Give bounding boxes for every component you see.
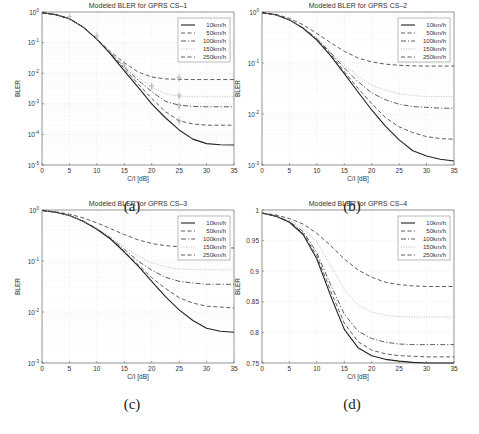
caption-c: (c) — [112, 396, 152, 413]
svg-text:10-4: 10-4 — [28, 130, 40, 138]
chart-title: Modeled BLER for GPRS CS–2 — [309, 2, 408, 9]
x-axis-label: C/I [dB] — [127, 373, 149, 381]
svg-text:10-1: 10-1 — [28, 257, 40, 265]
svg-text:15: 15 — [341, 167, 349, 174]
svg-text:20: 20 — [368, 167, 376, 174]
svg-text:25: 25 — [396, 167, 404, 174]
svg-text:0: 0 — [40, 365, 44, 372]
chart-panel-b: Modeled BLER for GPRS CS–205101520253035… — [220, 0, 479, 202]
svg-text:0.8: 0.8 — [250, 329, 259, 336]
chart-svg: Modeled BLER for GPRS CS–205101520253035… — [220, 0, 479, 198]
svg-text:100: 100 — [29, 8, 39, 16]
svg-text:35: 35 — [450, 365, 458, 372]
svg-text:10-3: 10-3 — [28, 359, 40, 367]
chart-title: Modeled BLER for GPRS CS–1 — [89, 2, 188, 9]
svg-text:0: 0 — [260, 167, 264, 174]
chart-svg: Modeled BLER for GPRS CS–405101520253035… — [220, 198, 479, 396]
svg-text:20: 20 — [148, 167, 156, 174]
svg-text:10: 10 — [93, 167, 101, 174]
legend: 10km/h50km/h100km/h150km/h250km/h — [398, 18, 450, 62]
svg-text:10-3: 10-3 — [28, 99, 40, 107]
svg-text:10: 10 — [93, 365, 101, 372]
svg-text:20: 20 — [148, 365, 156, 372]
svg-text:25: 25 — [176, 365, 184, 372]
svg-text:1: 1 — [255, 207, 259, 214]
legend-label: 250km/h — [423, 252, 446, 258]
y-axis-label: BLER — [14, 80, 21, 97]
chart-panel-d: Modeled BLER for GPRS CS–405101520253035… — [220, 198, 479, 400]
y-axis-label: BLER — [14, 278, 21, 295]
svg-text:10-5: 10-5 — [28, 161, 40, 169]
svg-text:10: 10 — [313, 365, 321, 372]
svg-text:0: 0 — [40, 167, 44, 174]
legend-label: 50km/h — [426, 30, 446, 36]
svg-text:10-2: 10-2 — [28, 69, 40, 77]
legend-label: 150km/h — [423, 244, 446, 250]
svg-text:10-3: 10-3 — [248, 161, 260, 169]
svg-text:0.75: 0.75 — [246, 360, 259, 367]
legend-label: 50km/h — [426, 228, 446, 234]
svg-text:30: 30 — [423, 365, 431, 372]
svg-text:100: 100 — [29, 206, 39, 214]
legend-label: 250km/h — [423, 54, 446, 60]
svg-text:15: 15 — [121, 167, 129, 174]
legend-label: 100km/h — [423, 38, 446, 44]
legend-label: 100km/h — [423, 236, 446, 242]
data-marker — [177, 92, 181, 100]
svg-text:30: 30 — [423, 167, 431, 174]
svg-text:0.95: 0.95 — [246, 237, 259, 244]
caption-a: (a) — [112, 198, 152, 215]
svg-text:0.9: 0.9 — [250, 268, 259, 275]
svg-text:15: 15 — [121, 365, 129, 372]
svg-text:25: 25 — [176, 167, 184, 174]
svg-text:5: 5 — [288, 167, 292, 174]
svg-text:100: 100 — [249, 8, 259, 16]
svg-text:10-1: 10-1 — [28, 38, 40, 46]
caption-b: (b) — [332, 198, 372, 215]
svg-text:15: 15 — [341, 365, 349, 372]
x-axis-label: C/I [dB] — [127, 175, 149, 183]
legend-label: 150km/h — [423, 46, 446, 52]
legend-label: 10km/h — [426, 22, 446, 28]
svg-text:5: 5 — [68, 167, 72, 174]
y-axis-label: BLER — [234, 278, 241, 295]
svg-text:5: 5 — [68, 365, 72, 372]
data-marker — [177, 117, 181, 125]
svg-text:10: 10 — [313, 167, 321, 174]
svg-text:0.85: 0.85 — [246, 298, 259, 305]
legend-label: 10km/h — [426, 220, 446, 226]
data-marker — [150, 82, 154, 90]
y-axis-label: BLER — [234, 80, 241, 97]
x-axis-label: C/I [dB] — [347, 373, 369, 381]
legend: 10km/h50km/h100km/h150km/h250km/h — [398, 216, 450, 260]
caption-d: (d) — [332, 396, 372, 413]
svg-text:5: 5 — [288, 365, 292, 372]
svg-text:30: 30 — [203, 365, 211, 372]
data-marker — [177, 74, 181, 82]
x-axis-label: C/I [dB] — [347, 175, 369, 183]
svg-text:0: 0 — [260, 365, 264, 372]
svg-text:10-2: 10-2 — [28, 308, 40, 316]
svg-text:10-1: 10-1 — [248, 59, 260, 67]
svg-text:30: 30 — [203, 167, 211, 174]
svg-text:20: 20 — [368, 365, 376, 372]
svg-text:35: 35 — [450, 167, 458, 174]
svg-text:25: 25 — [396, 365, 404, 372]
svg-text:10-2: 10-2 — [248, 110, 260, 118]
